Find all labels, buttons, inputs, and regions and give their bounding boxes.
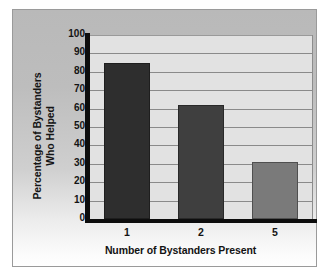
x-axis-tick-label: 5 [238, 226, 312, 238]
bar [252, 162, 298, 219]
y-axis-tick-label: 80 [59, 66, 85, 76]
y-axis-tick-label: 70 [59, 84, 85, 94]
y-axis-title: Percentage of Bystanders Who Helped [27, 48, 61, 223]
y-axis-tick-label: 60 [59, 103, 85, 113]
x-axis-title: Number of Bystanders Present [53, 244, 308, 256]
y-axis-title-line-2: Who Helped [44, 72, 57, 199]
bar [178, 105, 224, 219]
y-axis-tick-label: 0 [59, 213, 85, 223]
y-axis-tick-label: 50 [59, 121, 85, 131]
bar [104, 63, 150, 219]
y-axis-tick-label: 90 [59, 47, 85, 57]
y-axis-tick-label: 40 [59, 139, 85, 149]
x-axis-tick-label: 2 [164, 226, 238, 238]
y-axis-tick-label: 20 [59, 176, 85, 186]
chart-panel: Percentage of Bystanders Who Helped 0102… [12, 9, 317, 267]
y-axis-tick-label: 30 [59, 158, 85, 168]
y-axis-title-line-1: Percentage of Bystanders [31, 72, 44, 199]
x-axis-line [85, 219, 317, 223]
y-axis-tick-labels: 0102030405060708090100 [59, 32, 85, 219]
x-axis-tick-labels: 125 [90, 226, 312, 240]
gridline [90, 35, 312, 36]
y-axis-tick-label: 100 [59, 29, 85, 39]
x-axis-tick-label: 1 [90, 226, 164, 238]
bar-chart-figure: Percentage of Bystanders Who Helped 0102… [0, 0, 330, 280]
plot-area [90, 35, 313, 219]
y-axis-tick-label: 10 [59, 195, 85, 205]
gridline [90, 53, 312, 54]
y-axis-line [85, 33, 90, 221]
